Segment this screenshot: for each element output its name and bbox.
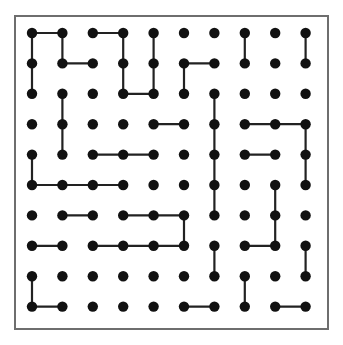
grid-dot[interactable]	[240, 180, 250, 190]
grid-dot[interactable]	[300, 28, 310, 38]
grid-dot[interactable]	[118, 241, 128, 251]
grid-dot[interactable]	[209, 28, 219, 38]
grid-dot[interactable]	[27, 149, 37, 159]
grid-dot[interactable]	[209, 210, 219, 220]
grid-dot[interactable]	[88, 89, 98, 99]
grid-dot[interactable]	[179, 58, 189, 68]
grid-dot[interactable]	[179, 180, 189, 190]
grid-dot[interactable]	[300, 210, 310, 220]
grid-dot[interactable]	[88, 271, 98, 281]
grid-dot[interactable]	[179, 119, 189, 129]
grid-dot[interactable]	[300, 180, 310, 190]
grid-dot[interactable]	[179, 241, 189, 251]
grid-dot[interactable]	[88, 28, 98, 38]
grid-dot[interactable]	[27, 301, 37, 311]
grid-dot[interactable]	[57, 180, 67, 190]
grid-dot[interactable]	[179, 149, 189, 159]
grid-dot[interactable]	[179, 271, 189, 281]
grid-dot[interactable]	[240, 149, 250, 159]
grid-dot[interactable]	[88, 149, 98, 159]
grid-dot[interactable]	[88, 241, 98, 251]
grid-dot[interactable]	[240, 119, 250, 129]
grid-dot[interactable]	[118, 271, 128, 281]
grid-dot[interactable]	[57, 89, 67, 99]
grid-dot[interactable]	[118, 210, 128, 220]
grid-dot[interactable]	[179, 89, 189, 99]
grid-dot[interactable]	[118, 58, 128, 68]
grid-dot[interactable]	[88, 119, 98, 129]
grid-dot[interactable]	[209, 89, 219, 99]
grid-dot[interactable]	[179, 301, 189, 311]
grid-dot[interactable]	[209, 241, 219, 251]
grid-dot[interactable]	[148, 210, 158, 220]
grid-dot[interactable]	[148, 180, 158, 190]
grid-dot[interactable]	[300, 119, 310, 129]
grid-dot[interactable]	[209, 149, 219, 159]
grid-dot[interactable]	[27, 241, 37, 251]
grid-dot[interactable]	[27, 119, 37, 129]
grid-dot[interactable]	[270, 271, 280, 281]
grid-dot[interactable]	[118, 180, 128, 190]
grid-dot[interactable]	[240, 241, 250, 251]
grid-dot[interactable]	[57, 271, 67, 281]
grid-dot[interactable]	[57, 28, 67, 38]
grid-dot[interactable]	[27, 271, 37, 281]
grid-dot[interactable]	[270, 119, 280, 129]
grid-dot[interactable]	[57, 149, 67, 159]
grid-dot[interactable]	[209, 119, 219, 129]
grid-dot[interactable]	[270, 58, 280, 68]
grid-dot[interactable]	[148, 119, 158, 129]
grid-dot[interactable]	[300, 58, 310, 68]
grid-dot[interactable]	[27, 58, 37, 68]
grid-dot[interactable]	[240, 301, 250, 311]
grid-dot[interactable]	[209, 271, 219, 281]
grid-dot[interactable]	[240, 210, 250, 220]
grid-dot[interactable]	[118, 89, 128, 99]
grid-dot[interactable]	[209, 58, 219, 68]
grid-dot[interactable]	[240, 271, 250, 281]
grid-dot[interactable]	[240, 28, 250, 38]
grid-dot[interactable]	[88, 210, 98, 220]
grid-dot[interactable]	[300, 241, 310, 251]
grid-dot[interactable]	[57, 119, 67, 129]
grid-dot[interactable]	[118, 149, 128, 159]
grid-dot[interactable]	[57, 58, 67, 68]
grid-dot[interactable]	[270, 89, 280, 99]
grid-dot[interactable]	[270, 28, 280, 38]
grid-dot[interactable]	[240, 58, 250, 68]
grid-dot[interactable]	[57, 241, 67, 251]
grid-dot[interactable]	[179, 28, 189, 38]
grid-dot[interactable]	[148, 28, 158, 38]
grid-dot[interactable]	[270, 241, 280, 251]
grid-dot[interactable]	[27, 28, 37, 38]
grid-dot[interactable]	[270, 210, 280, 220]
grid-dot[interactable]	[179, 210, 189, 220]
grid-dot[interactable]	[27, 210, 37, 220]
grid-dot[interactable]	[148, 89, 158, 99]
grid-dot[interactable]	[270, 301, 280, 311]
dot-grid-diagram[interactable]	[0, 0, 343, 345]
grid-dot[interactable]	[300, 89, 310, 99]
grid-dot[interactable]	[148, 301, 158, 311]
grid-dot[interactable]	[148, 271, 158, 281]
grid-dot[interactable]	[118, 28, 128, 38]
grid-dot[interactable]	[118, 301, 128, 311]
grid-dot[interactable]	[148, 58, 158, 68]
grid-dot[interactable]	[270, 180, 280, 190]
grid-dot[interactable]	[270, 149, 280, 159]
grid-dot[interactable]	[300, 271, 310, 281]
grid-dot[interactable]	[209, 180, 219, 190]
grid-dot[interactable]	[88, 58, 98, 68]
grid-dot[interactable]	[88, 301, 98, 311]
grid-dot[interactable]	[118, 119, 128, 129]
grid-dot[interactable]	[57, 210, 67, 220]
grid-dot[interactable]	[209, 301, 219, 311]
grid-dot[interactable]	[240, 89, 250, 99]
grid-dot[interactable]	[88, 180, 98, 190]
grid-dot[interactable]	[300, 149, 310, 159]
grid-dot[interactable]	[57, 301, 67, 311]
grid-dot[interactable]	[27, 180, 37, 190]
grid-dot[interactable]	[148, 241, 158, 251]
grid-dot[interactable]	[300, 301, 310, 311]
grid-dot[interactable]	[27, 89, 37, 99]
